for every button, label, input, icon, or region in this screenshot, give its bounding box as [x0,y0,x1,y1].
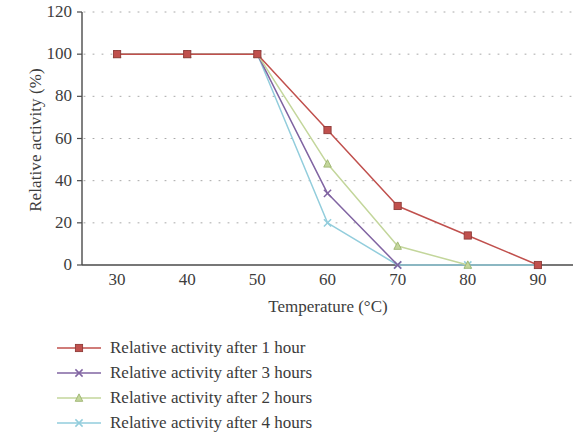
legend-marker-icon [56,389,102,407]
data-point-marker [75,344,82,351]
data-point-marker [113,51,120,58]
x-tick-label: 90 [515,270,561,290]
data-point-marker [184,51,191,58]
legend-marker-icon [56,414,102,432]
x-tick-label: 40 [164,270,210,290]
data-point-marker [464,232,471,239]
x-axis-title: Temperature (°C) [82,297,574,317]
legend-item[interactable]: Relative activity after 1 hour [56,336,305,359]
legend-item[interactable]: Relative activity after 3 hours [56,361,312,384]
x-tick-label: 30 [94,270,140,290]
legend-label: Relative activity after 3 hours [110,363,312,382]
legend-label: Relative activity after 2 hours [110,388,312,407]
chart-figure: Relative activity (%) 020406080100120 30… [0,0,578,447]
plot-region: Relative activity (%) 020406080100120 30… [0,0,578,330]
legend-item[interactable]: Relative activity after 4 hours [56,411,312,434]
x-tick-label: 80 [445,270,491,290]
axis-ticks [77,12,82,265]
legend-marker-icon [56,364,102,382]
data-point-marker [394,202,401,209]
series-markers [113,50,541,269]
legend-label: Relative activity after 1 hour [110,338,305,357]
x-tick-label: 60 [305,270,351,290]
x-tick-label: 50 [234,270,280,290]
x-tick-label: 70 [375,270,421,290]
legend-marker-icon [56,339,102,357]
legend-item[interactable]: Relative activity after 2 hours [56,386,312,409]
data-point-marker [254,51,261,58]
data-point-marker [324,190,331,197]
data-point-marker [534,261,541,268]
legend-label: Relative activity after 4 hours [110,413,312,432]
x-axis-tick-labels: 30405060708090 [0,270,578,296]
data-point-marker [324,126,331,133]
grid-dots [84,12,573,223]
chart-legend: Relative activity after 1 hourRelative a… [0,330,578,447]
data-point-marker [324,219,331,226]
series-line [117,54,468,265]
